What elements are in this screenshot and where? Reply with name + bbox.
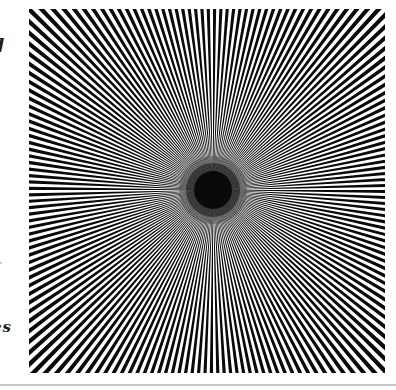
scanned-page: d r es (0, 0, 396, 390)
mackay-ray-pattern (29, 9, 385, 373)
clipped-text-fragment-bottom: es (0, 320, 12, 335)
page-edge-rule (0, 384, 396, 386)
mackay-ray-pattern-svg (29, 9, 385, 373)
clipped-text-fragment-top: d (0, 36, 4, 55)
clipped-text-fragment-middle: r (0, 258, 1, 271)
